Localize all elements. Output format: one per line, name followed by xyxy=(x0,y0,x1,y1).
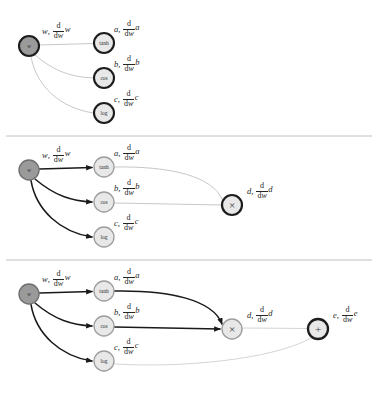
edge-w-to-tanh xyxy=(40,292,93,294)
node-w[interactable]: w xyxy=(19,284,39,304)
panel-2-nodes: wtanhcoslog× xyxy=(19,157,242,247)
panel-1-edges xyxy=(31,44,94,114)
node-tanh[interactable]: tanh xyxy=(94,157,114,177)
node-w[interactable]: w xyxy=(19,36,39,56)
node-mul-label: × xyxy=(229,199,235,211)
node-cos-label: cos xyxy=(100,323,107,329)
derivative-label-panel-2-w: w,ddww xyxy=(42,146,70,164)
edge-cos-to-mul xyxy=(115,327,221,329)
panel-2: wtanhcoslog× xyxy=(19,157,242,247)
derivative-label-panel-1-log: c,ddwc xyxy=(114,90,139,108)
node-tanh-label: tanh xyxy=(99,164,109,170)
derivative-label-panel-3-log: c,ddwc xyxy=(114,338,139,356)
edge-log-to-add xyxy=(115,338,312,365)
edge-w-to-tanh xyxy=(40,168,93,170)
node-log-label: log xyxy=(101,110,108,116)
node-cos[interactable]: cos xyxy=(94,68,114,88)
node-tanh-label: tanh xyxy=(99,40,109,46)
node-tanh[interactable]: tanh xyxy=(94,33,114,53)
derivative-label-panel-1-cos: b,ddwb xyxy=(114,55,139,73)
panel-1: wtanhcoslog xyxy=(19,33,114,123)
graph-canvas: wtanhcoslogwtanhcoslog×wtanhcoslog×+ xyxy=(0,0,382,400)
node-add-label: + xyxy=(315,323,321,335)
panel-1-nodes: wtanhcoslog xyxy=(19,33,114,123)
derivative-label-panel-3-cos: b,ddwb xyxy=(114,303,139,321)
autodiff-figure: wtanhcoslogwtanhcoslog×wtanhcoslog×+ w,d… xyxy=(0,0,382,400)
node-tanh[interactable]: tanh xyxy=(94,281,114,301)
node-tanh-label: tanh xyxy=(99,288,109,294)
node-add[interactable]: + xyxy=(308,319,328,339)
edge-w-to-cos xyxy=(35,55,94,78)
node-cos-label: cos xyxy=(100,75,107,81)
derivative-label-panel-3-mul: d,ddwd xyxy=(247,306,272,324)
node-w-label: w xyxy=(27,43,31,49)
edge-w-to-log xyxy=(31,57,94,114)
derivative-label-panel-2-log: c,ddwc xyxy=(114,214,139,232)
panel-3: wtanhcoslog×+ xyxy=(19,281,328,371)
derivative-label-panel-2-cos: b,ddwb xyxy=(114,179,139,197)
node-mul-label: × xyxy=(229,323,235,335)
panel-3-edges xyxy=(31,291,311,365)
node-cos[interactable]: cos xyxy=(94,192,114,212)
derivative-label-panel-2-mul: d,ddwd xyxy=(247,182,272,200)
node-log-label: log xyxy=(101,234,108,240)
derivative-label-panel-1-tanh: a,ddwa xyxy=(114,20,139,38)
node-w-label: w xyxy=(27,291,31,297)
edge-w-to-tanh xyxy=(40,44,94,46)
node-w[interactable]: w xyxy=(19,160,39,180)
derivative-label-panel-3-add: e,ddwe xyxy=(333,306,358,324)
node-w-label: w xyxy=(27,167,31,173)
node-log-label: log xyxy=(101,358,108,364)
edge-w-to-cos xyxy=(35,179,92,202)
node-log[interactable]: log xyxy=(94,351,114,371)
node-mul[interactable]: × xyxy=(222,195,242,215)
derivative-label-panel-3-w: w,ddww xyxy=(42,270,70,288)
node-cos-label: cos xyxy=(100,199,107,205)
node-log[interactable]: log xyxy=(94,227,114,247)
edge-w-to-cos xyxy=(35,303,92,326)
edge-w-to-log xyxy=(31,305,92,362)
node-log[interactable]: log xyxy=(94,103,114,123)
edge-cos-to-mul xyxy=(115,203,222,205)
edge-w-to-log xyxy=(31,181,92,238)
node-cos[interactable]: cos xyxy=(94,316,114,336)
derivative-label-panel-2-tanh: a,ddwa xyxy=(114,144,139,162)
node-mul[interactable]: × xyxy=(222,319,242,339)
derivative-label-panel-3-tanh: a,ddwa xyxy=(114,268,139,286)
derivative-label-panel-1-w: w,ddww xyxy=(42,22,70,40)
edge-mul-to-add xyxy=(243,328,308,329)
